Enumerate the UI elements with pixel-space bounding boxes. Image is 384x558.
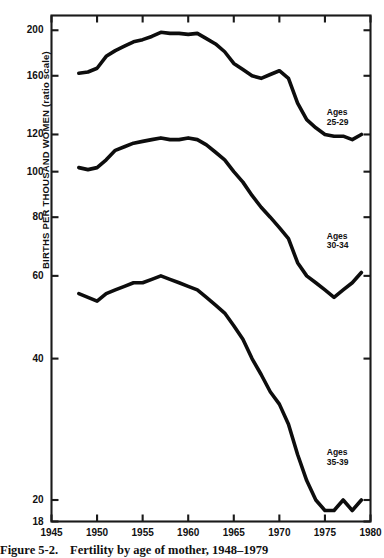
y-tick-label-80: 80 <box>10 211 44 222</box>
x-tick-label-1945: 1945 <box>32 527 72 538</box>
plot-frame <box>52 16 371 522</box>
x-tick-label-1960: 1960 <box>168 527 208 538</box>
y-tick-label-60: 60 <box>10 270 44 281</box>
y-tick-label-20: 20 <box>10 494 44 505</box>
x-tick-label-1955: 1955 <box>123 527 163 538</box>
y-axis-label: BIRTHS PER THOUSAND WOMEN (ratio scale) <box>40 10 51 310</box>
y-tick-label-120: 120 <box>10 128 44 139</box>
y-tick-label-40: 40 <box>10 353 44 364</box>
series-line-2 <box>79 276 362 511</box>
y-tick-label-200: 200 <box>10 24 44 35</box>
annotation-line-2: 30-34 <box>327 241 349 251</box>
figure-caption: Figure 5-2.Fertility by age of mother, 1… <box>0 543 384 558</box>
series-line-1 <box>79 138 362 297</box>
caption-number: Figure 5-2. <box>0 543 58 557</box>
y-tick-label-100: 100 <box>10 166 44 177</box>
x-tick-label-1980: 1980 <box>351 527 384 538</box>
series-line-0 <box>79 32 362 139</box>
annotation-ages-30-34: Ages30-34 <box>327 232 349 252</box>
annotation-line-2: 35-39 <box>327 458 349 468</box>
x-tick-label-1975: 1975 <box>305 527 345 538</box>
caption-text: Fertility by age of mother, 1948–1979 <box>70 543 268 557</box>
x-tick-label-1950: 1950 <box>77 527 117 538</box>
x-tick-label-1970: 1970 <box>259 527 299 538</box>
annotation-ages-35-39: Ages35-39 <box>327 448 349 468</box>
x-tick-label-1965: 1965 <box>214 527 254 538</box>
y-tick-label-160: 160 <box>10 70 44 81</box>
annotation-line-2: 25-29 <box>327 118 349 128</box>
annotation-ages-25-29: Ages25-29 <box>327 108 349 128</box>
y-tick-label-18: 18 <box>10 516 44 527</box>
